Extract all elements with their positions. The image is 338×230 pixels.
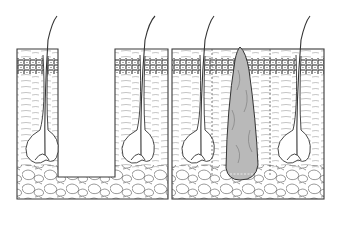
diagram-stage: Skin cross-section: tissue excision vs. … bbox=[0, 0, 338, 230]
skin-diagram bbox=[0, 0, 338, 230]
